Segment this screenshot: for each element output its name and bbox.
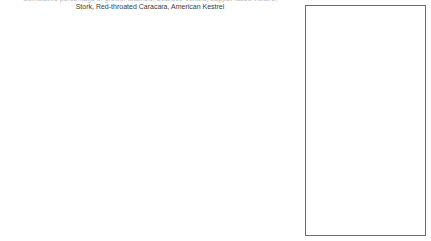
- x-axis: [33, 205, 305, 221]
- chart-figure: Cumulative percentage of growth attained…: [0, 0, 431, 241]
- chart-title-line2: Stork, Red-throated Caracara, American K…: [0, 3, 300, 10]
- y-axis: [0, 22, 31, 201]
- plot-area: [33, 22, 295, 201]
- legend: [305, 5, 426, 236]
